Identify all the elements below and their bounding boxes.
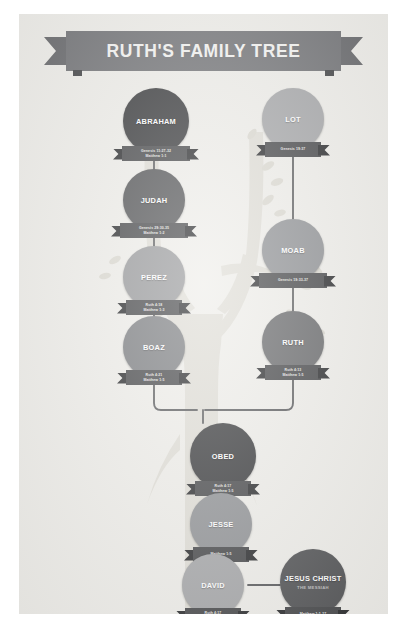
node-disc-ruth: RUTH [262,311,324,373]
node-subtitle-jesus: THE MESSIAH [297,585,329,590]
node-disc-jesus: JESUS CHRISTTHE MESSIAH [280,549,346,614]
page-title: RUTH'S FAMILY TREE [107,41,301,62]
ribbon-body-perez: Ruth 4:18Matthew 1:3 [126,300,182,315]
node-ribbon-david: Ruth 4:17Matthew 1:6 [176,608,250,614]
node-disc-moab: MOAB [262,219,324,281]
node-ribbon-lot: Genesis 19:37 [256,142,330,157]
ribbon-end-right [246,550,258,561]
node-ribbon-jesus: Matthew 1:1-17 [276,607,350,614]
node-label-jesus: JESUS CHRIST [285,574,342,583]
ribbon-body-judah: Genesis 29:30-35Matthew 1:2 [120,223,188,238]
tree-node-obed[interactable]: OBEDRuth 4:17Matthew 1:5 [190,423,256,489]
ribbon-end-right [187,149,199,160]
node-label-abraham: ABRAHAM [136,117,176,126]
tree-node-abraham[interactable]: ABRAHAMGenesis 11:27-32Matthew 1:1 [123,88,189,154]
ribbon-body-lot: Genesis 19:37 [265,142,321,157]
ribbon-body-moab: Genesis 19:33-37 [259,273,327,288]
node-label-lot: LOT [285,115,301,124]
scripture-ref: Matthew 1:5 [282,373,303,378]
node-label-judah: JUDAH [141,196,168,205]
banner-body: RUTH'S FAMILY TREE [66,31,341,71]
ribbon-body-jesus: Matthew 1:1-17 [285,607,341,614]
node-disc-abraham: ABRAHAM [123,88,189,154]
tree-node-moab[interactable]: MOABGenesis 19:33-37 [262,219,324,281]
ribbon-end-right [238,611,250,615]
scripture-ref: Matthew 1:1-17 [300,612,327,614]
ribbon-body-abraham: Genesis 11:27-32Matthew 1:1 [122,146,190,161]
node-disc-obed: OBED [190,423,256,489]
node-label-boaz: BOAZ [143,343,165,352]
node-ribbon-perez: Ruth 4:18Matthew 1:3 [117,300,191,315]
node-ribbon-moab: Genesis 19:33-37 [250,273,336,288]
ribbon-body-david: Ruth 4:17Matthew 1:6 [185,608,241,614]
scripture-ref: Matthew 1:2 [143,231,164,236]
ribbon-body-boaz: Ruth 4:21Matthew 1:5 [126,370,182,385]
scripture-ref: Matthew 1:5 [143,378,164,383]
tree-node-jesse[interactable]: JESSEMatthew 1:5 [190,493,252,555]
node-disc-judah: JUDAH [123,169,185,231]
tree-node-judah[interactable]: JUDAHGenesis 29:30-35Matthew 1:2 [123,169,185,231]
node-disc-jesse: JESSE [190,493,252,555]
banner-fold-left [73,70,82,76]
ribbon-end-right [179,303,191,314]
scripture-ref: Matthew 1:1 [145,154,166,159]
node-disc-boaz: BOAZ [123,316,185,378]
title-banner: RUTH'S FAMILY TREE [66,31,341,71]
node-ribbon-ruth: Ruth 4:13Matthew 1:5 [256,365,330,380]
ribbon-end-right [185,226,197,237]
ribbon-end-right [318,368,330,379]
node-disc-lot: LOT [262,88,324,150]
node-label-obed: OBED [212,452,234,461]
node-disc-perez: PEREZ [123,246,185,308]
ribbon-end-right [324,276,336,287]
ribbon-end-right [179,373,191,384]
ribbon-end-right [338,610,350,615]
banner-fold-right [325,70,334,76]
tree-node-perez[interactable]: PEREZRuth 4:18Matthew 1:3 [123,246,185,308]
tree-node-jesus[interactable]: JESUS CHRISTTHE MESSIAHMatthew 1:1-17 [280,549,346,614]
node-disc-david: DAVID [182,554,244,614]
ribbon-end-right [318,145,330,156]
node-label-moab: MOAB [281,246,305,255]
node-label-jesse: JESSE [208,520,233,529]
node-ribbon-judah: Genesis 29:30-35Matthew 1:2 [111,223,197,238]
scripture-ref: Genesis 19:37 [281,147,306,152]
tree-node-boaz[interactable]: BOAZRuth 4:21Matthew 1:5 [123,316,185,378]
node-ribbon-boaz: Ruth 4:21Matthew 1:5 [117,370,191,385]
tree-node-ruth[interactable]: RUTHRuth 4:13Matthew 1:5 [262,311,324,373]
ribbon-body-ruth: Ruth 4:13Matthew 1:5 [265,365,321,380]
tree-node-lot[interactable]: LOTGenesis 19:37 [262,88,324,150]
node-label-david: DAVID [201,581,225,590]
node-label-ruth: RUTH [282,338,304,347]
infographic-poster: RUTH'S FAMILY TREE ABRAHAMGenesis 11:27-… [19,14,388,614]
scripture-ref: Ruth 4:17 [205,611,222,614]
tree-node-david[interactable]: DAVIDRuth 4:17Matthew 1:6 [182,554,244,614]
scripture-ref: Genesis 19:33-37 [278,278,308,283]
node-ribbon-abraham: Genesis 11:27-32Matthew 1:1 [113,146,199,161]
node-label-perez: PEREZ [141,273,167,282]
scripture-ref: Matthew 1:3 [143,308,164,313]
